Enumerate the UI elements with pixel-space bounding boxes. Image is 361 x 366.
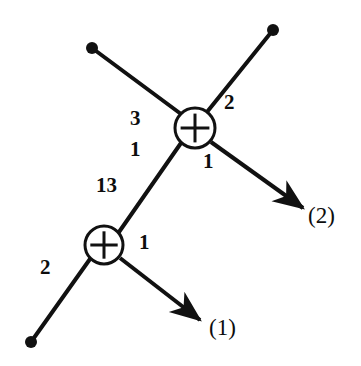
- edge-adder-top-to-adder-bottom: [119, 143, 181, 232]
- label-1-below-top-adder: 1: [203, 151, 214, 172]
- label-1-right-bottom-adder: 1: [139, 232, 150, 253]
- label-13: 13: [96, 175, 117, 196]
- port-label-1: (1): [209, 316, 236, 339]
- diagram-canvas: 31211312 (2)(1): [0, 0, 361, 366]
- terminal-bottom-left: [25, 336, 37, 348]
- label-3: 3: [130, 108, 141, 129]
- label-1-upper: 1: [130, 139, 141, 160]
- terminal-top-right: [267, 24, 279, 36]
- terminal-top-left: [86, 42, 98, 54]
- signal-flow-diagram: [0, 0, 361, 366]
- adder-bottom: [85, 226, 123, 264]
- label-2-lower-left: 2: [40, 257, 51, 278]
- edge-topright-to-adder-top: [207, 30, 273, 112]
- edge-topleft-to-adder-top: [92, 48, 181, 114]
- port-label-2: (2): [308, 204, 335, 227]
- edges-group: [31, 30, 273, 342]
- arrow-output-2: [211, 142, 303, 208]
- label-2-upper-right: 2: [224, 92, 235, 113]
- arrow-output-1: [120, 258, 200, 320]
- adder-top: [175, 108, 215, 148]
